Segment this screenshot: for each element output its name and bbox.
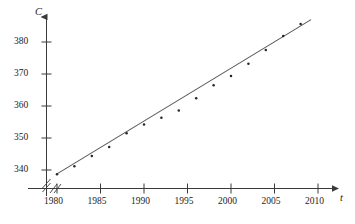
x-tick-label: 1980 bbox=[44, 197, 63, 207]
y-tick-label: 350 bbox=[14, 133, 28, 143]
y-tick-label: 380 bbox=[14, 37, 28, 47]
trend-line bbox=[57, 20, 311, 174]
x-tick-label: 1995 bbox=[175, 197, 194, 207]
data-point bbox=[230, 75, 233, 78]
x-axis bbox=[28, 184, 338, 194]
y-axis-label: C bbox=[35, 6, 42, 17]
plot-canvas bbox=[0, 0, 355, 224]
data-point bbox=[91, 155, 94, 158]
data-point bbox=[212, 84, 215, 87]
x-tick-label: 2000 bbox=[218, 197, 237, 207]
data-point bbox=[195, 97, 198, 100]
y-tick-label: 340 bbox=[14, 165, 28, 175]
data-point bbox=[282, 35, 285, 38]
data-point bbox=[299, 23, 302, 26]
scatter-plot-figure: 380 370 360 350 340 1980 1985 1990 1995 … bbox=[0, 0, 355, 224]
x-tick-label: 1990 bbox=[131, 197, 150, 207]
y-tick-label: 370 bbox=[14, 69, 28, 79]
data-point bbox=[160, 117, 163, 120]
data-point bbox=[143, 123, 146, 126]
x-tick-label: 2010 bbox=[305, 197, 324, 207]
y-axis bbox=[42, 17, 52, 196]
data-point bbox=[56, 173, 59, 176]
data-point bbox=[178, 109, 181, 112]
x-tick-label: 2005 bbox=[262, 197, 281, 207]
data-point bbox=[125, 132, 128, 135]
y-tick-label: 360 bbox=[14, 101, 28, 111]
x-tick-label: 1985 bbox=[88, 197, 107, 207]
data-point bbox=[73, 165, 76, 168]
x-axis-label: t bbox=[340, 192, 343, 203]
data-point bbox=[247, 63, 250, 65]
data-point bbox=[265, 49, 268, 52]
data-point bbox=[108, 146, 111, 149]
